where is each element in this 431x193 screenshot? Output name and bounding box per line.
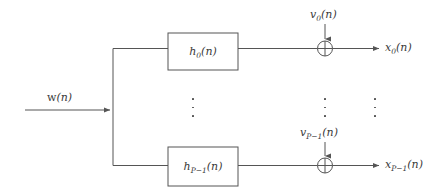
noise-0-sub: 0 [316,14,321,23]
ellipsis-outputs-icon [372,98,378,117]
noise-0-label: v0(n) [310,9,337,20]
ellipsis-noise-icon [322,98,328,117]
input-label-arg: (n) [56,91,72,104]
filter-block-p-minus-1-label: hP−1(n) [168,161,238,172]
input-label-w: w(n) [47,92,72,103]
block-diagram: w(n) h0(n) hP−1(n) v0(n) vP−1(n) x0(n) x… [0,0,431,193]
noise-p-minus-1-arg: (n) [322,126,338,139]
filter-block-0-label: h0(n) [168,46,238,57]
filter-block-p-minus-1-base: h [184,160,191,173]
noise-p-minus-1-sub: P−1 [306,132,322,141]
output-0-arg: (n) [396,41,412,54]
filter-block-0-arg: (n) [201,45,217,58]
output-0-label: x0(n) [385,42,412,53]
filter-block-p-minus-1-arg: (n) [207,160,223,173]
output-p-minus-1-label: xP−1(n) [385,159,423,170]
output-p-minus-1-arg: (n) [407,158,423,171]
filter-block-p-minus-1-sub: P−1 [191,166,207,175]
noise-p-minus-1-label: vP−1(n) [300,127,338,138]
output-0-sub: 0 [391,47,396,56]
ellipsis-blocks-icon [190,98,196,117]
output-p-minus-1-sub: P−1 [391,164,407,173]
filter-block-0-sub: 0 [196,51,201,60]
noise-0-arg: (n) [321,8,337,21]
input-label-base: w [47,91,56,104]
